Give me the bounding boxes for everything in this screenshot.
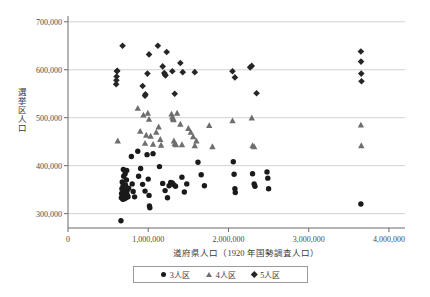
data-point-triangle xyxy=(135,105,141,111)
data-point-circle xyxy=(162,188,167,193)
data-point-triangle xyxy=(179,141,185,147)
data-point-diamond xyxy=(358,58,365,65)
data-point-circle xyxy=(182,189,187,194)
legend-label: 4人区 xyxy=(216,269,236,280)
data-point-diamond xyxy=(159,63,166,70)
data-point-diamond xyxy=(144,70,151,77)
data-point-circle xyxy=(140,182,145,187)
data-point-circle xyxy=(160,181,165,186)
data-point-triangle xyxy=(142,140,148,146)
x-axis-title: 道府県人口（1920 年国勢調査人口） xyxy=(0,246,430,258)
data-point-diamond xyxy=(229,68,236,75)
data-point-triangle xyxy=(137,128,143,134)
data-point-circle xyxy=(147,205,152,210)
scatter-chart-figure: 選挙区人口 300,000400,000500,000600,000700,00… xyxy=(0,0,430,297)
data-point-circle xyxy=(150,151,155,156)
data-point-triangle xyxy=(206,122,212,128)
data-point-circle xyxy=(125,194,130,199)
data-point-diamond xyxy=(171,90,178,97)
data-point-diamond xyxy=(114,67,121,74)
legend-diamond-icon xyxy=(251,271,257,277)
data-point-circle xyxy=(250,171,255,176)
data-point-triangle xyxy=(229,117,235,123)
data-point-triangle xyxy=(155,124,161,130)
data-point-circle xyxy=(129,154,134,159)
data-point-diamond xyxy=(169,68,176,75)
data-point-triangle xyxy=(146,116,152,122)
legend-circle-icon xyxy=(161,272,166,277)
data-point-triangle xyxy=(145,110,151,116)
legend-item-4人区[interactable]: 4人区 xyxy=(206,269,236,280)
data-point-circle xyxy=(142,188,147,193)
data-point-triangle xyxy=(153,129,159,135)
data-point-diamond xyxy=(358,70,365,77)
data-point-diamond xyxy=(358,78,365,85)
data-point-circle xyxy=(136,174,141,179)
data-point-circle xyxy=(124,168,129,173)
data-point-circle xyxy=(266,186,271,191)
data-point-circle xyxy=(202,183,207,188)
data-point-circle xyxy=(231,172,236,177)
data-point-diamond xyxy=(139,83,146,90)
data-point-diamond xyxy=(232,74,239,81)
data-point-diamond xyxy=(146,51,153,58)
data-point-triangle xyxy=(174,110,180,116)
data-point-diamond xyxy=(177,60,184,67)
legend-label: 5人区 xyxy=(260,269,280,280)
data-point-triangle xyxy=(158,142,164,148)
data-point-circle xyxy=(231,159,236,164)
data-point-triangle xyxy=(157,136,163,142)
data-point-circle xyxy=(146,176,151,181)
data-point-diamond xyxy=(119,42,126,49)
data-point-circle xyxy=(130,189,135,194)
legend-triangle-icon xyxy=(206,272,212,277)
legend-item-5人区[interactable]: 5人区 xyxy=(252,269,281,280)
data-point-circle xyxy=(252,184,257,189)
data-point-circle xyxy=(173,184,178,189)
data-point-circle xyxy=(165,195,170,200)
data-point-circle xyxy=(124,177,129,182)
data-point-circle xyxy=(264,169,269,174)
data-point-circle xyxy=(126,185,131,190)
data-point-triangle xyxy=(150,141,156,147)
data-point-circle xyxy=(265,175,270,180)
data-point-circle xyxy=(144,152,149,157)
data-point-circle xyxy=(138,166,143,171)
data-point-circle xyxy=(195,160,200,165)
data-point-diamond xyxy=(358,48,365,55)
data-point-circle xyxy=(132,194,137,199)
data-point-diamond xyxy=(163,49,170,56)
chart-legend: 3人区4人区5人区 xyxy=(133,266,308,283)
data-point-circle xyxy=(233,190,238,195)
data-point-diamond xyxy=(253,90,260,97)
legend-item-3人区[interactable]: 3人区 xyxy=(161,269,190,280)
legend-label: 3人区 xyxy=(170,269,190,280)
data-point-triangle xyxy=(358,142,364,148)
data-point-circle xyxy=(129,181,134,186)
data-point-circle xyxy=(118,218,123,223)
data-point-circle xyxy=(135,149,140,154)
data-point-circle xyxy=(198,172,203,177)
data-point-circle xyxy=(184,181,189,186)
data-point-triangle xyxy=(358,122,364,128)
data-point-diamond xyxy=(155,42,162,49)
data-point-triangle xyxy=(115,138,121,144)
data-point-circle xyxy=(157,164,162,169)
data-point-triangle xyxy=(209,143,215,149)
data-point-circle xyxy=(146,193,151,198)
data-point-triangle xyxy=(177,121,183,127)
data-point-triangle xyxy=(147,133,153,139)
data-point-circle xyxy=(179,174,184,179)
data-point-circle xyxy=(358,201,363,206)
